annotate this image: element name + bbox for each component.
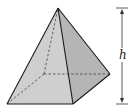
arrow-up-icon: [120, 9, 124, 14]
pyramid-diagram: h: [0, 0, 131, 111]
height-label: h: [119, 48, 127, 62]
arrow-down-icon: [120, 98, 124, 103]
